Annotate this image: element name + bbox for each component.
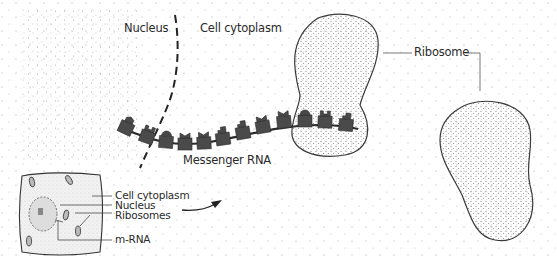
ribosome-attached: [292, 14, 378, 156]
inset-label-ribosomes: Ribosomes: [115, 209, 171, 221]
diagram-canvas: Nucleus Cell cytoplasm Ribosome Messenge…: [0, 0, 557, 261]
label-ribosome: Ribosome: [414, 45, 469, 59]
label-messenger-rna: Messenger RNA: [183, 153, 271, 167]
label-nucleus: Nucleus: [124, 21, 168, 35]
inset-label-mrna: m-RNA: [115, 233, 150, 245]
nucleus-region: [20, 10, 138, 160]
inset-cell: [19, 173, 112, 255]
label-cell-cytoplasm: Cell cytoplasm: [200, 21, 282, 35]
